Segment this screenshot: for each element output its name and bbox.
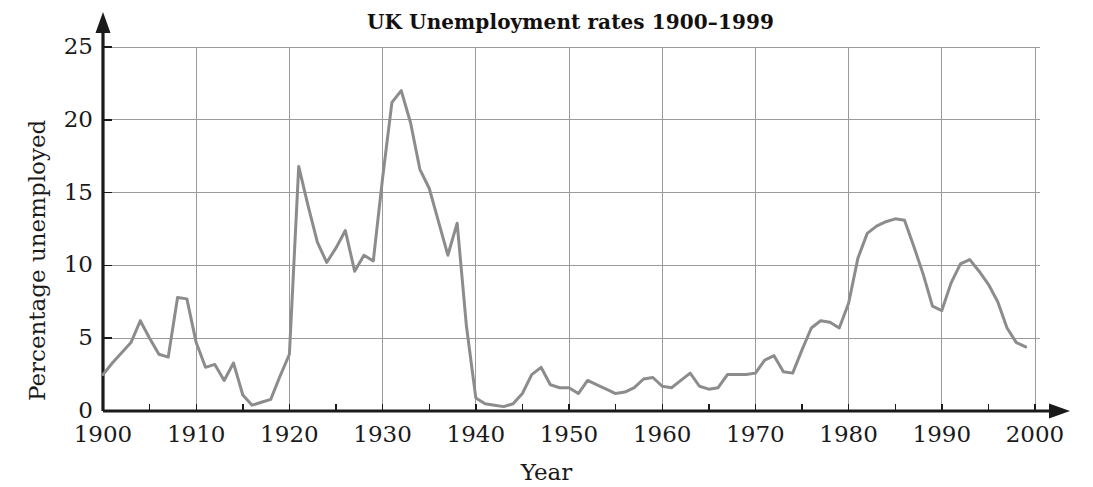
y-axis-title: Percentage unemployed	[24, 120, 50, 401]
x-tick-label-2000: 2000	[980, 423, 1090, 446]
unemployment-line-chart: UK Unemployment rates 1900–1999 Percenta…	[0, 0, 1093, 487]
y-tick-label-20: 20	[64, 108, 93, 131]
plot-area	[0, 0, 1093, 487]
y-tick-label-15: 15	[64, 181, 93, 204]
y-tick-label-0: 0	[78, 399, 93, 422]
y-tick-label-10: 10	[64, 253, 93, 276]
y-tick-label-25: 25	[64, 35, 93, 58]
gridlines	[103, 47, 1040, 411]
y-tick-label-5: 5	[78, 326, 93, 349]
data-series-line	[103, 91, 1026, 407]
x-axis-title: Year	[0, 459, 1093, 485]
axis-lines	[96, 12, 1071, 419]
